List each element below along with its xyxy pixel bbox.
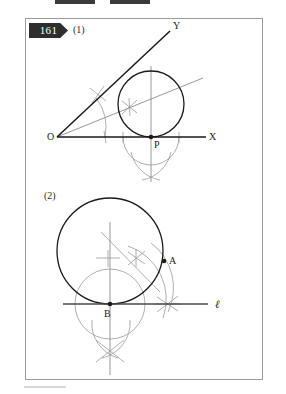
ray-OY [57,31,170,137]
fig2-construction-arcs [75,232,180,362]
cross-arc-right [142,152,171,180]
point-O-label: O [47,131,54,142]
cross-arc-left [131,152,160,180]
geometry-figures: O P X Y [0,0,286,394]
point-A-label: A [169,255,177,266]
figure-2-group: A B ℓ [57,198,220,375]
bisector-cross-c [129,98,130,116]
point-A-dot [162,259,167,264]
angle-bisector-line [57,78,203,137]
point-B-label: B [104,308,111,319]
line-l-label: ℓ [215,298,220,310]
point-B-dot [108,302,113,307]
arc-through-A-B-left [128,246,166,318]
figure-1-group: O P X Y [47,20,217,182]
point-X-label: X [209,131,217,142]
point-P-label: P [154,139,160,150]
point-P-dot [149,135,154,140]
point-Y-label: Y [173,20,180,31]
